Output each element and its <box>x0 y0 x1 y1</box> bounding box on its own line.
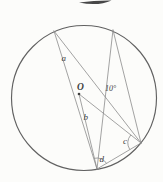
label-center-O: O <box>77 82 84 92</box>
radius-center-to-bottom <box>79 94 97 169</box>
scanned-page: a O b 10° c d <box>0 0 163 182</box>
label-given-angle-10deg: 10° <box>105 84 117 93</box>
label-angle-b: b <box>84 112 89 122</box>
center-point-dot <box>78 93 81 96</box>
cropped-figure-fragment <box>79 0 112 4</box>
label-angle-a: a <box>62 53 67 63</box>
label-angle-c: c <box>123 136 127 146</box>
chord-topright-to-bottomright <box>113 30 141 143</box>
angle-arc-c <box>128 135 131 150</box>
chord-topright-to-bottom <box>97 30 113 169</box>
radius-center-to-bottomright <box>79 94 141 143</box>
chord-topleft-to-bottomright <box>54 31 141 143</box>
chord-topleft-to-bottom <box>54 31 97 169</box>
circle-geometry-diagram: a O b 10° c d <box>0 0 163 182</box>
label-angle-d: d <box>100 154 105 164</box>
